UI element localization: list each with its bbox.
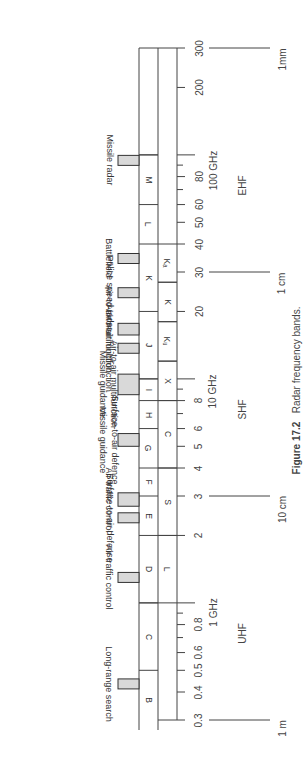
axis-tick-label: 100 GHz bbox=[208, 151, 219, 190]
frequency-region-label: SHF bbox=[237, 399, 248, 419]
axis-tick-label: 8 bbox=[193, 398, 204, 404]
ieee-band-label-ku: Kᵤ bbox=[162, 337, 172, 346]
axis-tick-label: 80 bbox=[194, 171, 205, 182]
wavelength-label: 1mm bbox=[277, 48, 288, 70]
nato-band-label-c: C bbox=[144, 634, 154, 640]
nato-band-label-k: K bbox=[143, 275, 153, 281]
axis-tick-label: 5 bbox=[193, 444, 204, 450]
wavelength-label: 10 cm bbox=[277, 496, 288, 523]
figure-caption: Figure 17.2 Radar frequency bands. bbox=[291, 306, 302, 474]
axis-tick-label: 0.6 bbox=[193, 646, 204, 660]
axis-tick-label: 60 bbox=[194, 199, 205, 210]
wavelength-label: 1 cm bbox=[276, 272, 287, 294]
nato-band-label-g: G bbox=[143, 445, 153, 452]
application-marker bbox=[118, 679, 139, 689]
ieee-band-label-c: C bbox=[163, 431, 173, 437]
application-label: Long-range search bbox=[104, 646, 114, 722]
ieee-band-label-s: S bbox=[162, 499, 172, 505]
nato-band-label-i: I bbox=[144, 389, 154, 391]
application-label: Missile radar bbox=[104, 135, 114, 186]
nato-band-label-m: M bbox=[144, 176, 154, 183]
ieee-band-label-k: K bbox=[162, 299, 172, 305]
nato-band-label-h: H bbox=[144, 411, 154, 417]
wavelength-label: 1 m bbox=[276, 720, 287, 737]
axis-tick-label: 4 bbox=[193, 465, 204, 471]
radar-frequency-band-diagram bbox=[0, 0, 307, 770]
axis-tick-label: 300 bbox=[193, 40, 204, 57]
ieee-band-label-ka: Kₐ bbox=[162, 259, 172, 268]
axis-tick-label: 20 bbox=[194, 306, 205, 317]
nato-band-label-d: D bbox=[144, 566, 154, 572]
axis-tick-label: 0.3 bbox=[193, 713, 204, 727]
figure-number: Figure 17.2 bbox=[291, 421, 302, 474]
figure-title: Radar frequency bands. bbox=[291, 306, 302, 421]
application-marker bbox=[118, 253, 139, 263]
nato-band-label-j: J bbox=[144, 343, 154, 347]
axis-tick-label: 0.8 bbox=[193, 618, 204, 632]
application-marker bbox=[118, 493, 139, 506]
application-label: Battlefield bbox=[104, 239, 114, 279]
application-marker bbox=[118, 288, 139, 298]
axis-tick-label: 40 bbox=[194, 238, 205, 249]
application-marker bbox=[118, 434, 139, 447]
application-marker bbox=[118, 323, 139, 335]
axis-tick-label: 50 bbox=[194, 217, 205, 228]
axis-tick-label: 1 GHz bbox=[208, 599, 219, 627]
nato-band-label-l: L bbox=[143, 222, 153, 227]
frequency-region-label: EHF bbox=[237, 175, 248, 195]
nato-band-label-f: F bbox=[144, 479, 154, 484]
ieee-band-label-x: X bbox=[162, 378, 172, 384]
nato-band-label-e: E bbox=[143, 513, 153, 519]
axis-tick-label: 2 bbox=[193, 533, 204, 539]
axis-tick-label: 6 bbox=[193, 426, 204, 432]
axis-tick-label: 3 bbox=[193, 493, 204, 499]
nato-band-label-b: B bbox=[143, 697, 153, 703]
axis-tick-label: 10 GHz bbox=[207, 375, 218, 409]
frequency-region-label: UHF bbox=[236, 623, 247, 644]
application-marker bbox=[118, 343, 139, 353]
ieee-band-label-l: L bbox=[162, 567, 172, 572]
application-marker bbox=[118, 155, 139, 165]
axis-tick-label: 0.5 bbox=[193, 663, 204, 677]
application-marker bbox=[118, 374, 139, 395]
application-marker bbox=[118, 572, 139, 582]
application-marker bbox=[118, 513, 139, 523]
axis-tick-label: 200 bbox=[193, 79, 204, 96]
axis-tick-label: 30 bbox=[194, 266, 205, 277]
axis-tick-label: 0.4 bbox=[193, 685, 204, 699]
